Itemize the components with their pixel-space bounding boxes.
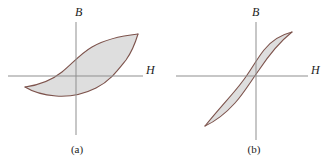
panel-b: B H (b): [164, 0, 328, 166]
x-axis-label-h: H: [146, 64, 155, 76]
hysteresis-figure: B H (a) B H (b): [0, 0, 328, 166]
panel-caption-a: (a): [62, 144, 92, 155]
y-axis-label-b: B: [75, 6, 82, 18]
x-axis-label-h: H: [311, 64, 320, 76]
panel-a: B H (a): [0, 0, 164, 166]
y-axis-label-b: B: [252, 6, 259, 18]
hysteresis-loop-a: [25, 34, 138, 96]
hysteresis-loop-b: [205, 32, 292, 126]
panel-caption-b: (b): [239, 144, 269, 155]
panel-a-plot: [0, 0, 164, 166]
panel-b-plot: [164, 0, 328, 166]
